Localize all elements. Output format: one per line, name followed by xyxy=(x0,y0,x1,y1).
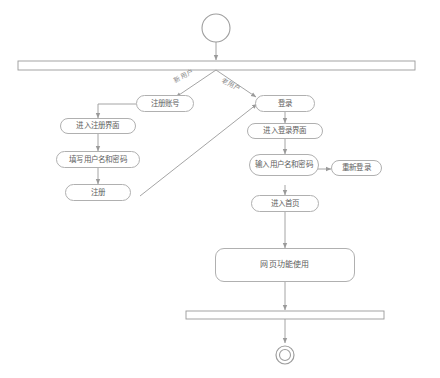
node-register-account[interactable]: 注册账号 xyxy=(136,95,194,112)
edge-register-account-to-enter-register-page xyxy=(98,104,136,118)
edge-register-to-login xyxy=(140,104,257,196)
node-input-credentials[interactable]: 输入用户名和密码 xyxy=(249,154,319,176)
node-enter-homepage[interactable]: 进入首页 xyxy=(251,195,319,212)
node-fill-credentials[interactable]: 填写用户名和密码 xyxy=(56,151,140,168)
node-enter-login-page[interactable]: 进入登录界面 xyxy=(247,123,323,139)
start-node-circle xyxy=(202,14,230,42)
node-web-function-use[interactable]: 网页功能使用 xyxy=(215,248,355,282)
node-login[interactable]: 登录 xyxy=(255,95,315,112)
node-relogin[interactable]: 重新登录 xyxy=(331,160,382,176)
node-register[interactable]: 注册 xyxy=(65,184,131,201)
join-bar-shape xyxy=(186,311,384,319)
final-node-inner xyxy=(280,350,291,361)
fork-bar-shape xyxy=(18,61,415,70)
activity-diagram: 新用户 老用户 注册账号 登录 进入注册界面 进入登录界面 填写用户名和密码 输… xyxy=(0,0,440,378)
node-enter-register-page[interactable]: 进入注册界面 xyxy=(60,118,136,134)
